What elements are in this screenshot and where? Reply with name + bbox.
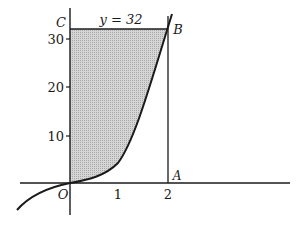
shaded-region: [70, 29, 167, 183]
diagram-canvas: 30 20 10 1 2 C B A O y = 32: [0, 0, 302, 225]
x-tick-label-1: 1: [114, 187, 122, 202]
point-label-o: O: [58, 187, 69, 202]
line-label-y32: y = 32: [98, 12, 142, 27]
point-label-b: B: [172, 22, 183, 37]
point-label-c: C: [56, 15, 66, 30]
y-tick-label-20: 20: [47, 80, 64, 95]
y-tick-label-10: 10: [47, 129, 64, 144]
y-tick-label-30: 30: [47, 32, 64, 47]
x-tick-label-2: 2: [164, 187, 172, 202]
point-label-a: A: [172, 169, 182, 183]
